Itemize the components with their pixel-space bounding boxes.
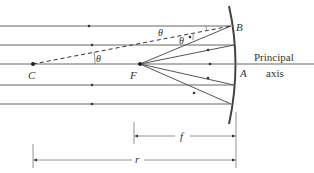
angle-arc-b1 <box>206 26 207 31</box>
label-c: C <box>28 69 36 81</box>
angle-arc-c <box>94 52 95 64</box>
point-f <box>138 62 142 66</box>
axis-label: axis <box>266 67 284 79</box>
label-dim-r: r <box>135 153 140 165</box>
principal-label: Principal <box>254 51 294 63</box>
reflected-rays <box>140 26 234 104</box>
label-a: A <box>239 67 247 79</box>
theta-b2: θ <box>179 35 184 46</box>
arrowheads-incident <box>88 25 94 106</box>
point-c <box>31 62 35 66</box>
incident-rays <box>0 26 314 104</box>
mirror-diagram: C F A B θ θ θ Principal axis f r <box>0 0 314 173</box>
dimension-r <box>33 144 234 168</box>
arrowheads-reflected <box>189 36 212 95</box>
theta-c: θ <box>96 53 101 64</box>
label-dim-f: f <box>180 130 185 142</box>
theta-b1: θ <box>158 27 163 38</box>
label-f: F <box>129 69 137 81</box>
label-b: B <box>236 21 243 33</box>
concave-mirror <box>229 6 236 124</box>
